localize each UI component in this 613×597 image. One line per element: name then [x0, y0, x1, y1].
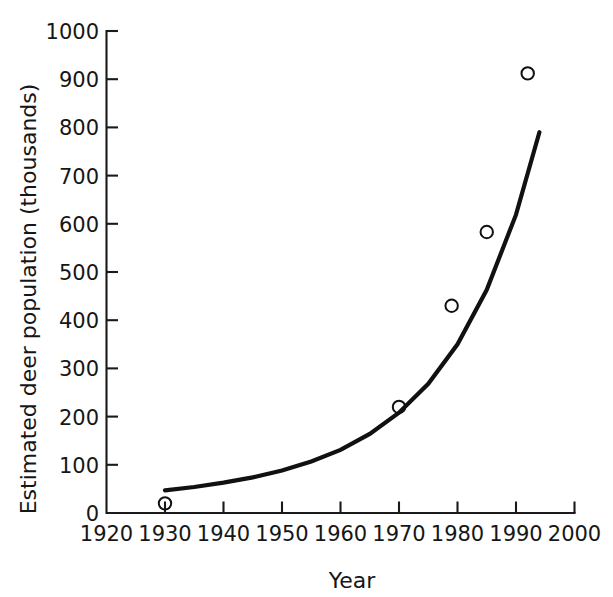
- x-axis-title: Year: [328, 568, 377, 593]
- y-axis-tick-labels: 1000 900 800 700 600 500 400 300 200 100…: [46, 20, 99, 526]
- y-tick-label-700: 700: [59, 165, 99, 189]
- y-tick-label-1000: 1000: [46, 20, 99, 44]
- x-tick-label-1990: 1990: [489, 522, 542, 546]
- data-point: [445, 300, 457, 312]
- x-tick-label-1950: 1950: [255, 522, 308, 546]
- x-tick-label-2000: 2000: [548, 522, 601, 546]
- y-tick-label-200: 200: [59, 406, 99, 430]
- x-tick-label-1980: 1980: [431, 522, 484, 546]
- y-tick-label-800: 800: [59, 116, 99, 140]
- data-point-group: [159, 67, 534, 509]
- y-axis-title: Estimated deer population (thousands): [16, 84, 41, 515]
- y-axis-ticks: [107, 31, 119, 465]
- x-tick-label-1960: 1960: [314, 522, 367, 546]
- x-axis-ticks: [165, 502, 575, 514]
- exponential-fit-curve: [165, 132, 539, 490]
- y-tick-label-500: 500: [59, 261, 99, 285]
- x-tick-label-1930: 1930: [138, 522, 191, 546]
- axis-lines: [107, 31, 575, 513]
- x-axis-tick-labels: 1920 1930 1940 1950 1960 1970 1980 1990 …: [80, 522, 601, 546]
- data-point: [481, 226, 493, 238]
- x-tick-label-1970: 1970: [372, 522, 425, 546]
- chart-svg: Estimated deer population (thousands) Ye…: [0, 0, 613, 597]
- y-tick-label-600: 600: [59, 213, 99, 237]
- x-tick-label-1920: 1920: [80, 522, 133, 546]
- deer-population-chart: Estimated deer population (thousands) Ye…: [0, 0, 613, 597]
- y-tick-label-900: 900: [59, 68, 99, 92]
- y-tick-label-400: 400: [59, 309, 99, 333]
- data-point: [522, 67, 534, 79]
- y-tick-label-300: 300: [59, 357, 99, 381]
- x-tick-label-1940: 1940: [197, 522, 250, 546]
- y-tick-label-100: 100: [59, 454, 99, 478]
